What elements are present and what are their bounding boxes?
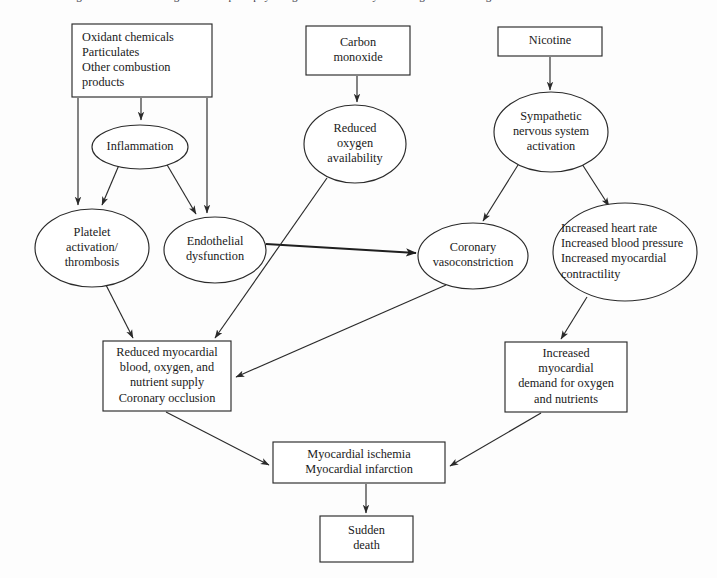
node-endothelial[interactable]: Endothelialdysfunction — [164, 217, 266, 283]
node-label-line: myocardial — [538, 361, 594, 375]
node-label-line: Reduced myocardial — [116, 345, 218, 359]
node-label-line: Particulates — [82, 45, 140, 59]
edge-increased-rate-to-demand — [561, 297, 587, 339]
node-label-line: Increased blood pressure — [561, 236, 684, 250]
node-label-line: Increased heart rate — [561, 221, 658, 235]
node-label-line: contractility — [561, 267, 621, 281]
node-label-line: thrombosis — [65, 255, 120, 269]
node-label-line: Coronary occlusion — [119, 391, 216, 405]
node-sympathetic[interactable]: Sympatheticnervous systemactivation — [494, 92, 608, 172]
node-label-line: products — [82, 75, 125, 89]
node-reduced-supply[interactable]: Reduced myocardialblood, oxygen, andnutr… — [103, 341, 231, 411]
node-label-line: Myocardial infarction — [305, 462, 413, 476]
node-label-line: availability — [327, 151, 383, 165]
node-label-line: Oxidant chemicals — [82, 30, 174, 44]
node-label-line: Other combustion — [82, 60, 170, 74]
node-label-line: Sudden — [348, 523, 385, 537]
node-label-line: and nutrients — [534, 392, 598, 406]
nodes-layer: Oxidant chemicalsParticulatesOther combu… — [35, 24, 697, 562]
edge-endothelial-to-coronary — [266, 244, 416, 253]
edge-sympathetic-to-increased-rate — [582, 164, 609, 206]
node-label-line: Carbon — [340, 35, 376, 49]
node-label-line: monoxide — [333, 50, 383, 64]
edge-platelet-to-reduced-supply — [106, 285, 133, 338]
edge-sympathetic-to-coronary — [483, 165, 518, 221]
node-label-line: blood, oxygen, and — [120, 360, 214, 374]
node-label-line: Myocardial ischemia — [307, 447, 411, 461]
node-label-line: nervous system — [513, 124, 590, 138]
edge-inflammation-to-endothelial — [166, 163, 196, 214]
node-label-line: oxygen — [337, 136, 373, 150]
node-label-line: Reduced — [333, 121, 376, 135]
node-label-line: death — [353, 538, 380, 552]
node-label-line: Platelet — [74, 225, 111, 239]
node-label-line: vasoconstriction — [433, 255, 514, 269]
flowchart-canvas: Oxidant chemicalsParticulatesOther combu… — [0, 0, 717, 578]
node-oxidants[interactable]: Oxidant chemicalsParticulatesOther combu… — [72, 24, 212, 97]
node-label-line: activation/ — [66, 240, 118, 254]
node-label-line: Endothelial — [187, 234, 244, 248]
node-platelet[interactable]: Plateletactivation/thrombosis — [35, 209, 149, 287]
node-label-line: Increased myocardial — [561, 251, 667, 265]
node-label-line: nutrient supply — [130, 375, 205, 389]
node-label-line: activation — [527, 139, 576, 153]
node-label-line: Nicotine — [529, 33, 572, 47]
edge-coronary-to-reduced-supply — [236, 285, 446, 377]
node-sudden-death[interactable]: Suddendeath — [320, 516, 413, 562]
node-carbon-monoxide[interactable]: Carbonmonoxide — [306, 26, 410, 75]
node-inflammation[interactable]: Inflammation — [92, 125, 188, 169]
node-nicotine[interactable]: Nicotine — [498, 27, 602, 56]
edge-reduced-supply-to-ischemia — [166, 412, 269, 465]
node-reduced-oxygen[interactable]: Reducedoxygenavailability — [304, 105, 406, 183]
flowchart-diagram: Figure 1. Schematic diagram of the patho… — [0, 0, 717, 578]
node-label-line: Sympathetic — [520, 109, 582, 123]
node-label-line: Increased — [542, 346, 589, 360]
node-label-line: dysfunction — [186, 249, 244, 263]
node-label-line: demand for oxygen — [518, 376, 614, 390]
node-increased-rate[interactable]: Increased heart rateIncreased blood pres… — [553, 203, 697, 301]
node-coronary-vasoconstriction[interactable]: Coronaryvasoconstriction — [418, 223, 528, 289]
node-increased-demand[interactable]: Increasedmyocardialdemand for oxygenand … — [505, 342, 627, 412]
node-ischemia[interactable]: Myocardial ischemiaMyocardial infarction — [273, 442, 445, 483]
edge-demand-to-ischemia — [450, 413, 541, 466]
node-label-line: Inflammation — [107, 139, 174, 153]
node-label-line: Coronary — [450, 240, 497, 254]
edge-inflammation-to-platelet — [102, 165, 119, 205]
